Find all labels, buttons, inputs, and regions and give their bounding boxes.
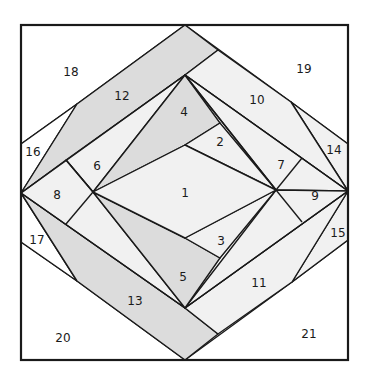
- piece-label-10: 10: [249, 93, 264, 107]
- piece-label-14: 14: [326, 143, 341, 157]
- piece-label-8: 8: [53, 188, 61, 202]
- piece-label-1: 1: [181, 186, 189, 200]
- piece-label-11: 11: [251, 276, 266, 290]
- piece-label-3: 3: [217, 234, 225, 248]
- piece-label-20: 20: [55, 331, 70, 345]
- piece-label-4: 4: [180, 105, 188, 119]
- piece-label-18: 18: [63, 65, 78, 79]
- quilt-block-diagram: 123456789101112131415161718192021: [0, 0, 368, 382]
- piece-label-15: 15: [330, 226, 345, 240]
- piece-label-9: 9: [311, 189, 319, 203]
- piece-label-16: 16: [25, 145, 40, 159]
- piece-label-17: 17: [29, 233, 44, 247]
- piece-label-12: 12: [114, 89, 129, 103]
- piece-label-6: 6: [93, 159, 101, 173]
- piece-label-7: 7: [277, 158, 285, 172]
- piece-label-19: 19: [296, 62, 311, 76]
- piece-label-2: 2: [216, 135, 224, 149]
- piece-label-21: 21: [301, 327, 316, 341]
- piece-label-13: 13: [127, 294, 142, 308]
- piece-label-5: 5: [179, 270, 187, 284]
